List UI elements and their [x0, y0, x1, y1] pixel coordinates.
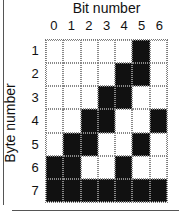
- bit-cell: [98, 86, 115, 109]
- bit-cell: [132, 109, 149, 132]
- column-label: 2: [80, 18, 98, 34]
- bit-cell: [132, 63, 149, 86]
- row-label: 6: [28, 156, 42, 179]
- bit-cell: [81, 109, 98, 132]
- bit-cell: [115, 109, 132, 132]
- row-label: 3: [28, 86, 42, 109]
- bit-cell: [81, 63, 98, 86]
- column-label: 5: [133, 18, 151, 34]
- bit-cell: [46, 40, 63, 63]
- bit-cell: [46, 86, 63, 109]
- bit-cell: [63, 86, 80, 109]
- bit-cell: [98, 156, 115, 179]
- bit-cell: [81, 156, 98, 179]
- bit-cell: [63, 40, 80, 63]
- y-axis-title: Byte number: [2, 83, 18, 163]
- bit-cell: [81, 179, 98, 202]
- bottom-border-line: [12, 210, 179, 211]
- column-label: 4: [115, 18, 133, 34]
- x-axis-title: Bit number: [45, 0, 168, 16]
- bit-cell: [46, 63, 63, 86]
- bit-cell: [150, 133, 167, 156]
- bit-cell: [98, 40, 115, 63]
- bit-cell: [115, 179, 132, 202]
- column-label: 6: [150, 18, 168, 34]
- bit-cell: [150, 63, 167, 86]
- bit-cell: [46, 156, 63, 179]
- bit-cell: [115, 40, 132, 63]
- row-label: 7: [28, 179, 42, 202]
- bit-grid: [45, 39, 168, 203]
- bit-cell: [46, 133, 63, 156]
- bit-cell: [98, 109, 115, 132]
- bit-cell: [63, 109, 80, 132]
- row-label: 4: [28, 109, 42, 132]
- bit-cell: [98, 63, 115, 86]
- bit-cell: [81, 133, 98, 156]
- column-label: 3: [98, 18, 116, 34]
- bit-cell: [63, 133, 80, 156]
- row-label: 5: [28, 133, 42, 156]
- bit-cell: [115, 156, 132, 179]
- bit-cell: [81, 40, 98, 63]
- bit-cell: [46, 109, 63, 132]
- row-label: 2: [28, 62, 42, 85]
- bit-cell: [115, 63, 132, 86]
- bit-cell: [81, 86, 98, 109]
- bit-cell: [132, 133, 149, 156]
- column-label: 1: [63, 18, 81, 34]
- bit-cell: [63, 179, 80, 202]
- bit-cell: [98, 133, 115, 156]
- bit-cell: [115, 133, 132, 156]
- bit-cell: [150, 86, 167, 109]
- bit-cell: [46, 179, 63, 202]
- column-label: 0: [45, 18, 63, 34]
- bit-cell: [132, 179, 149, 202]
- bit-cell: [98, 179, 115, 202]
- bit-cell: [132, 156, 149, 179]
- bit-cell: [150, 156, 167, 179]
- bit-cell: [150, 179, 167, 202]
- row-labels: 1 2 3 4 5 6 7: [28, 39, 42, 203]
- bit-cell: [63, 156, 80, 179]
- row-label: 1: [28, 39, 42, 62]
- bit-cell: [63, 63, 80, 86]
- bit-cell: [150, 40, 167, 63]
- column-labels: 0 1 2 3 4 5 6: [45, 18, 168, 34]
- bit-cell: [132, 86, 149, 109]
- bit-cell: [150, 109, 167, 132]
- bit-cell: [115, 86, 132, 109]
- bit-cell: [132, 40, 149, 63]
